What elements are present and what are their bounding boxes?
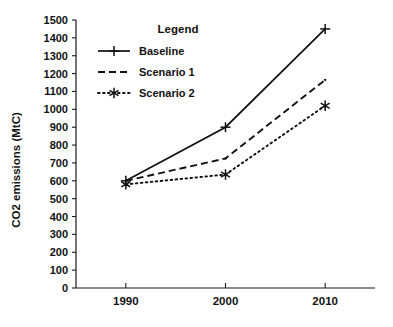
y-axis-title: CO2 emissions (MtC)	[10, 112, 22, 228]
y-tick-label: 200	[50, 246, 68, 258]
legend-label: Scenario 1	[139, 66, 195, 78]
y-tick-label: 1100	[44, 85, 68, 97]
legend-label: Scenario 2	[139, 87, 195, 99]
y-tick-label: 1400	[44, 32, 68, 44]
line-chart-canvas: CO2 emissions (MtC) 01002003004005006007…	[0, 0, 393, 327]
legend-title: Legend	[158, 23, 199, 35]
y-tick-label: 1300	[44, 50, 68, 62]
y-tick-label: 1000	[44, 103, 68, 115]
y-tick-label: 0	[62, 282, 68, 294]
y-tick-label: 300	[50, 228, 68, 240]
y-tick-label: 500	[50, 193, 68, 205]
data-point-marker-dot	[224, 157, 226, 159]
y-tick-label: 700	[50, 157, 68, 169]
y-tick-label: 400	[50, 211, 68, 223]
x-tick-label: 1990	[113, 295, 139, 307]
y-tick-label: 100	[50, 264, 68, 276]
y-tick-label: 900	[50, 121, 68, 133]
x-tick-label: 2010	[312, 295, 338, 307]
data-point-marker-dot	[324, 79, 326, 81]
y-tick-label: 1500	[44, 14, 68, 26]
x-tick-label: 2000	[213, 295, 239, 307]
y-tick-label: 800	[50, 139, 68, 151]
y-tick-label: 600	[50, 175, 68, 187]
chart-figure: CO2 emissions (MtC) 01002003004005006007…	[0, 0, 393, 327]
legend-label: Baseline	[139, 45, 184, 57]
y-tick-label: 1200	[44, 68, 68, 80]
